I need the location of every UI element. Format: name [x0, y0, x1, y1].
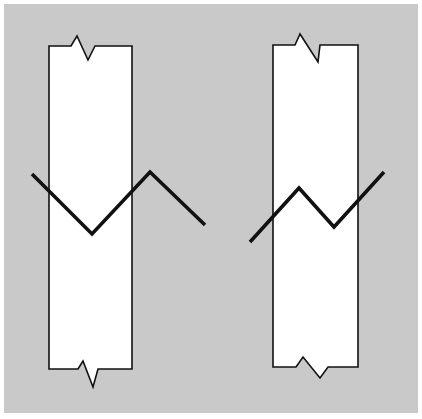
left-bar [49, 36, 132, 387]
illusion-figure [0, 0, 422, 419]
